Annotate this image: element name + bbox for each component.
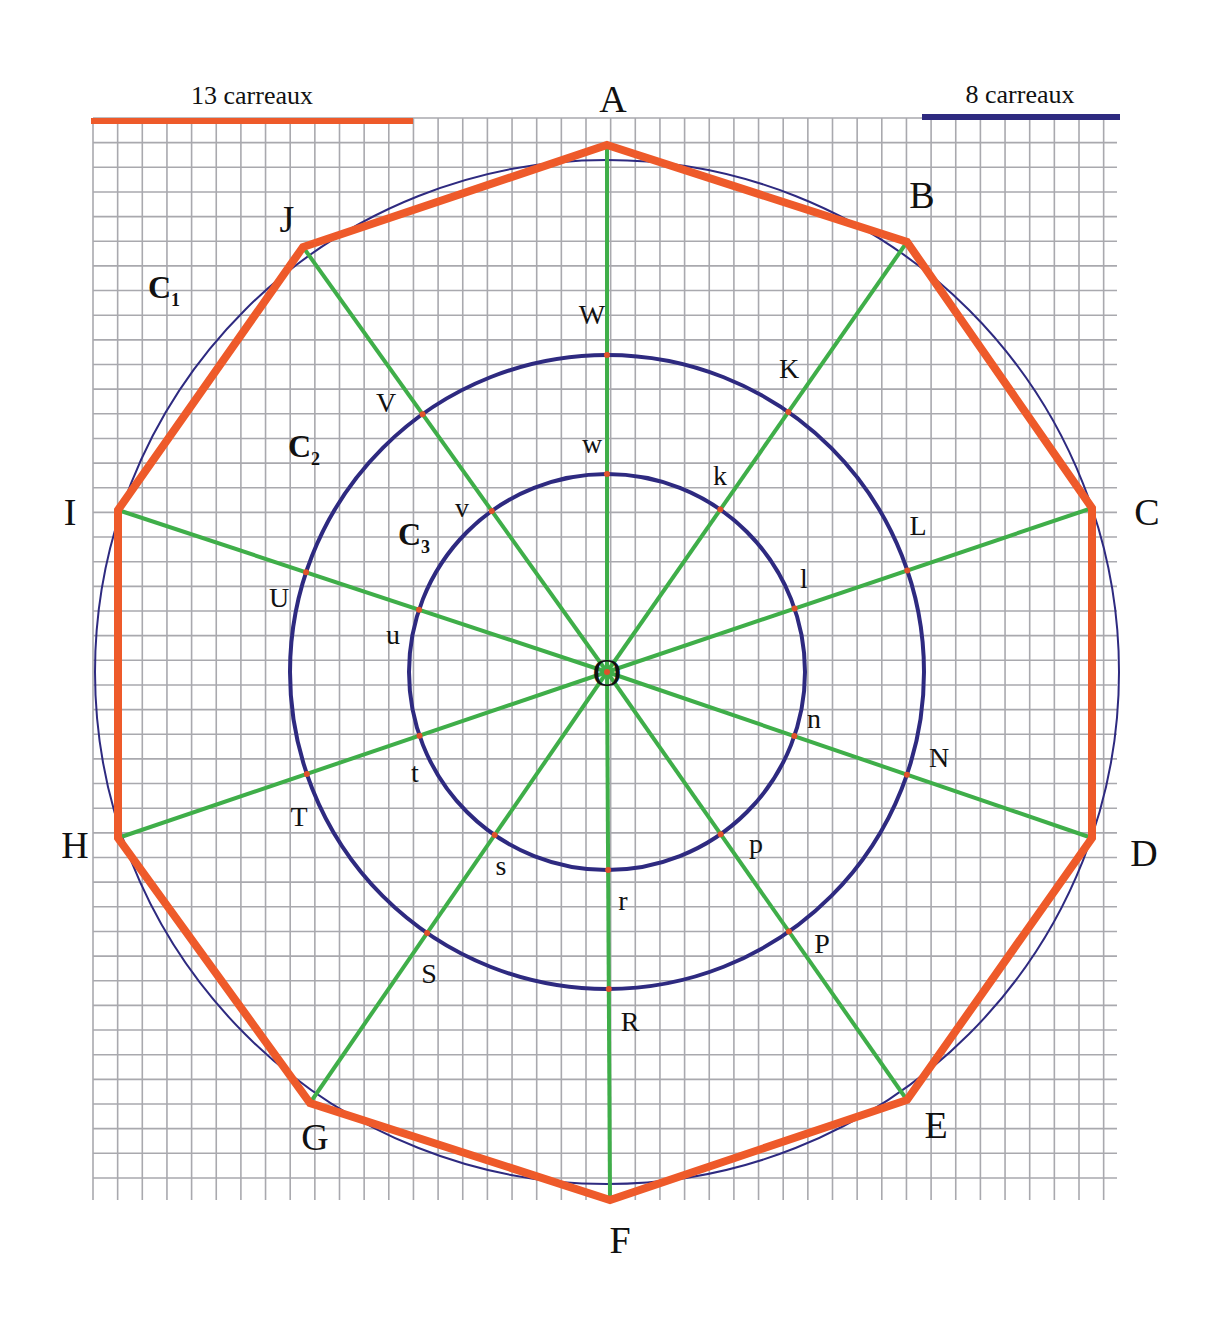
c2-point-label-T: T <box>290 801 307 832</box>
c2-point-label-R: R <box>621 1006 640 1037</box>
intersection-point <box>604 352 610 358</box>
intersection-point <box>904 772 910 778</box>
circle-label-c1: C1 <box>148 269 180 310</box>
spoke-OE <box>607 672 907 1100</box>
intersection-point <box>717 507 723 513</box>
c2-point-label-K: K <box>779 353 799 384</box>
intersection-point <box>786 929 792 935</box>
intersection-point <box>420 411 426 417</box>
c3-point-label-k: k <box>713 460 727 491</box>
intersection-point <box>791 733 797 739</box>
c2-point-label-P: P <box>814 928 830 959</box>
c3-point-label-n: n <box>807 703 821 734</box>
vertex-label-E: E <box>924 1104 947 1146</box>
intersection-point <box>785 409 791 415</box>
c3-point-label-t: t <box>411 757 419 788</box>
intersection-point <box>904 567 910 573</box>
vertex-label-H: H <box>61 824 88 866</box>
c3-point-label-r: r <box>618 885 628 916</box>
c3-point-label-w: w <box>582 428 603 459</box>
intersection-point <box>303 569 309 575</box>
spoke-OD <box>607 672 1092 838</box>
intersection-point <box>492 832 498 838</box>
intersection-point <box>792 606 798 612</box>
spoke-OF <box>607 672 610 1200</box>
vertex-label-J: J <box>280 198 295 240</box>
intersection-point <box>605 867 611 873</box>
scale-bar-label: 13 carreaux <box>191 81 313 110</box>
intersection-point <box>604 471 610 477</box>
c3-point-label-u: u <box>386 619 400 650</box>
intersection-point <box>416 607 422 613</box>
intersection-point <box>417 733 423 739</box>
vertex-label-C: C <box>1134 491 1159 533</box>
decagon-construction-diagram: 13 carreaux8 carreaux C1C2C3 ABCDEFGHIJW… <box>0 0 1222 1323</box>
c3-point-label-v: v <box>455 492 469 523</box>
c3-point-label-p: p <box>749 828 763 859</box>
c2-point-label-W: W <box>579 299 606 330</box>
c2-point-label-L: L <box>909 510 926 541</box>
intersection-point <box>424 930 430 936</box>
c3-point-label-l: l <box>800 563 808 594</box>
intersection-point <box>606 986 612 992</box>
vertex-label-F: F <box>609 1219 630 1261</box>
c3-point-label-s: s <box>496 850 507 881</box>
circle-label-c3: C3 <box>398 516 430 557</box>
c2-point-label-U: U <box>269 582 289 613</box>
c2-point-label-V: V <box>376 387 396 418</box>
intersection-point <box>489 508 495 514</box>
intersection-point <box>304 771 310 777</box>
spoke-OG <box>310 672 607 1103</box>
vertex-label-B: B <box>909 174 934 216</box>
intersection-point <box>718 831 724 837</box>
spoke-OB <box>607 242 907 672</box>
center-label-O: O <box>593 650 622 695</box>
vertex-label-A: A <box>599 78 627 120</box>
vertex-label-D: D <box>1130 832 1157 874</box>
scale-bar-label: 8 carreaux <box>966 80 1075 109</box>
c2-point-label-S: S <box>421 958 437 989</box>
spoke-OC <box>607 508 1092 672</box>
c2-point-label-N: N <box>929 742 949 773</box>
vertex-label-I: I <box>64 491 77 533</box>
vertex-label-G: G <box>301 1116 328 1158</box>
